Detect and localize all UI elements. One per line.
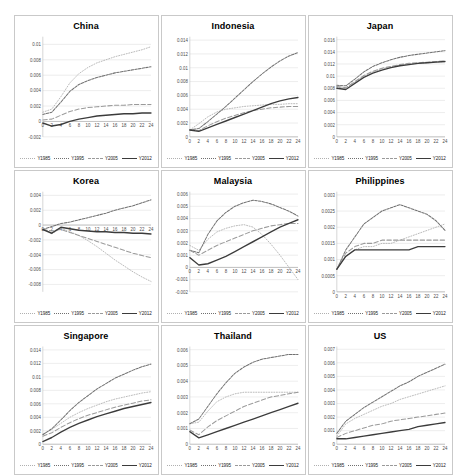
svg-text:0.004: 0.004 (177, 216, 188, 221)
svg-text:6: 6 (363, 138, 366, 143)
svg-text:0.01: 0.01 (32, 374, 41, 379)
legend-item-Y2012[interactable]: Y2012 (122, 156, 152, 161)
legend-label: Y1985 (37, 156, 50, 161)
svg-text:0.014: 0.014 (30, 347, 41, 352)
svg-text:4: 4 (354, 293, 357, 298)
legend-item-Y1995[interactable]: Y1995 (201, 311, 231, 316)
svg-text:8: 8 (225, 269, 228, 274)
legend-item-Y2012[interactable]: Y2012 (416, 156, 446, 161)
svg-text:0.003: 0.003 (324, 401, 335, 406)
chart-legend: Y1985Y1995Y2005Y2012 (164, 307, 302, 320)
legend-item-Y1985[interactable]: Y1985 (167, 156, 197, 161)
legend-item-Y1985[interactable]: Y1985 (314, 463, 344, 468)
svg-text:0.014: 0.014 (177, 38, 188, 43)
legend-label: Y1985 (331, 463, 344, 468)
legend-swatch-Y2005 (382, 311, 397, 315)
plot-area: 0.0140.0120.010.0080.0060.0040.002002468… (17, 342, 155, 459)
legend-item-Y2012[interactable]: Y2012 (122, 311, 152, 316)
svg-text:4: 4 (207, 446, 210, 451)
legend-swatch-Y2005 (88, 463, 103, 467)
svg-text:0.006: 0.006 (30, 73, 41, 78)
chart-legend: Y1985Y1995Y2005Y2012 (164, 459, 302, 472)
svg-text:14: 14 (398, 138, 403, 143)
legend-item-Y1985[interactable]: Y1985 (314, 156, 344, 161)
chart-legend: Y1985Y1995Y2005Y2012 (311, 307, 449, 320)
legend-item-Y2012[interactable]: Y2012 (269, 311, 299, 316)
svg-text:2: 2 (51, 446, 54, 451)
legend-label: Y1985 (37, 311, 50, 316)
legend-label: Y1995 (365, 156, 378, 161)
legend-item-Y1985[interactable]: Y1985 (167, 463, 197, 468)
svg-text:0.002: 0.002 (30, 428, 41, 433)
chart-panel-china: China0.010.0080.0060.0040.0020-0.0020246… (14, 15, 159, 168)
svg-text:0: 0 (189, 269, 192, 274)
legend-item-Y1995[interactable]: Y1995 (54, 311, 84, 316)
legend-item-Y1995[interactable]: Y1995 (54, 156, 84, 161)
chart-panel-korea: Korea0.0040.0020-0.002-0.004-0.006-0.008… (14, 170, 159, 323)
legend-item-Y1985[interactable]: Y1985 (314, 311, 344, 316)
legend-item-Y1995[interactable]: Y1995 (348, 463, 378, 468)
legend-item-Y1985[interactable]: Y1985 (20, 463, 50, 468)
svg-text:0.001: 0.001 (324, 428, 335, 433)
svg-text:0.001: 0.001 (177, 426, 188, 431)
svg-text:0.012: 0.012 (30, 361, 41, 366)
legend-item-Y1995[interactable]: Y1995 (348, 311, 378, 316)
legend-item-Y2005[interactable]: Y2005 (382, 156, 412, 161)
legend-item-Y1995[interactable]: Y1995 (201, 156, 231, 161)
svg-text:0.006: 0.006 (324, 98, 335, 103)
series-line-Y2012 (337, 247, 445, 270)
legend-swatch-Y1995 (201, 156, 216, 160)
svg-text:-0.004: -0.004 (28, 252, 41, 257)
legend-item-Y2012[interactable]: Y2012 (416, 463, 446, 468)
svg-text:16: 16 (113, 446, 118, 451)
legend-item-Y1985[interactable]: Y1985 (167, 311, 197, 316)
svg-text:0.006: 0.006 (177, 93, 188, 98)
chart-legend: Y1985Y1995Y2005Y2012 (17, 459, 155, 472)
svg-text:6: 6 (69, 123, 72, 128)
legend-item-Y1995[interactable]: Y1995 (54, 463, 84, 468)
legend-item-Y2005[interactable]: Y2005 (235, 463, 265, 468)
chart-panel-malaysia: Malaysia0.0060.0050.0040.0030.0020.0010-… (161, 170, 306, 323)
legend-item-Y2005[interactable]: Y2005 (382, 311, 412, 316)
svg-text:24: 24 (296, 446, 301, 451)
legend-swatch-Y2005 (235, 311, 250, 315)
svg-text:18: 18 (269, 269, 274, 274)
plot-area: 0.0040.0020-0.002-0.004-0.006-0.00802468… (17, 187, 155, 307)
legend-item-Y2012[interactable]: Y2012 (269, 463, 299, 468)
svg-text:-0.008: -0.008 (28, 282, 41, 287)
legend-item-Y1985[interactable]: Y1985 (20, 156, 50, 161)
legend-item-Y2005[interactable]: Y2005 (382, 463, 412, 468)
svg-text:0.002: 0.002 (324, 225, 335, 230)
legend-swatch-Y1995 (348, 311, 363, 315)
svg-text:0.004: 0.004 (324, 388, 335, 393)
legend-label: Y2005 (399, 463, 412, 468)
svg-text:8: 8 (78, 446, 81, 451)
svg-text:22: 22 (434, 446, 439, 451)
legend-label: Y2012 (286, 463, 299, 468)
legend-item-Y2012[interactable]: Y2012 (416, 311, 446, 316)
legend-item-Y1985[interactable]: Y1985 (20, 311, 50, 316)
legend-item-Y2005[interactable]: Y2005 (88, 463, 118, 468)
svg-text:14: 14 (104, 446, 109, 451)
svg-text:0.012: 0.012 (324, 62, 335, 67)
legend-item-Y2005[interactable]: Y2005 (88, 156, 118, 161)
svg-text:4: 4 (207, 269, 210, 274)
legend-label: Y2005 (399, 156, 412, 161)
svg-text:24: 24 (149, 446, 154, 451)
legend-item-Y2005[interactable]: Y2005 (235, 311, 265, 316)
legend-swatch-Y2012 (269, 463, 284, 467)
legend-item-Y1995[interactable]: Y1995 (201, 463, 231, 468)
legend-item-Y2005[interactable]: Y2005 (235, 156, 265, 161)
svg-text:14: 14 (251, 138, 256, 143)
legend-item-Y2005[interactable]: Y2005 (88, 311, 118, 316)
svg-text:8: 8 (372, 138, 375, 143)
legend-swatch-Y1995 (201, 311, 216, 315)
svg-text:6: 6 (216, 446, 219, 451)
legend-swatch-Y1995 (201, 463, 216, 467)
svg-text:18: 18 (416, 446, 421, 451)
legend-item-Y1995[interactable]: Y1995 (348, 156, 378, 161)
svg-text:0.007: 0.007 (324, 347, 335, 352)
legend-label: Y2012 (286, 311, 299, 316)
legend-item-Y2012[interactable]: Y2012 (269, 156, 299, 161)
legend-item-Y2012[interactable]: Y2012 (122, 463, 152, 468)
